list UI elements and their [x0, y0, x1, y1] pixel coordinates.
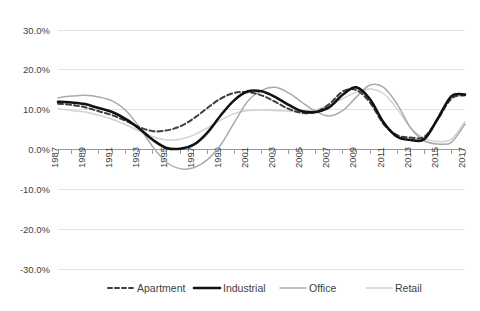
- x-tick-label: 1987: [49, 147, 60, 168]
- y-tick-label: 10.0%: [23, 104, 50, 115]
- x-tick-label: 2001: [239, 147, 250, 168]
- y-tick-label: -20.0%: [20, 224, 51, 235]
- x-tick-label: 2013: [402, 147, 413, 168]
- x-tick-label: 2017: [456, 147, 467, 168]
- x-tick-label: 2005: [293, 147, 304, 168]
- y-tick-label: 30.0%: [23, 25, 50, 36]
- legend-label-retail: Retail: [395, 282, 422, 294]
- x-tick-label: 2003: [266, 147, 277, 168]
- y-tick-label: -10.0%: [20, 184, 51, 195]
- footer-spacer: [0, 300, 480, 311]
- chart-container: 30.0%20.0%10.0%0.0%-10.0%-20.0%-30.0% 19…: [0, 0, 480, 311]
- legend-label-office: Office: [309, 282, 336, 294]
- x-tick-label: 1995: [158, 147, 169, 168]
- chart-legend: ApartmentIndustrialOfficeRetail: [108, 282, 422, 294]
- x-tick-label: 1989: [76, 147, 87, 168]
- legend-label-industrial: Industrial: [223, 282, 266, 294]
- x-axis-tick-labels: 1987198919911993199519971999200120032005…: [49, 147, 467, 168]
- y-axis-tick-labels: 30.0%20.0%10.0%0.0%-10.0%-20.0%-30.0%: [20, 25, 51, 275]
- x-tick-label: 2011: [375, 147, 386, 167]
- y-tick-label: 0.0%: [28, 144, 50, 155]
- y-tick-label: 20.0%: [23, 64, 50, 75]
- x-tick-label: 1997: [185, 147, 196, 168]
- legend-label-apartment: Apartment: [137, 282, 186, 294]
- x-tick-label: 1991: [103, 147, 114, 168]
- y-tick-label: -30.0%: [20, 264, 51, 275]
- x-tick-label: 2015: [429, 147, 440, 168]
- x-tick-label: 2007: [320, 147, 331, 168]
- line-chart: 30.0%20.0%10.0%0.0%-10.0%-20.0%-30.0% 19…: [0, 0, 480, 311]
- series-line-apartment: [58, 89, 465, 138]
- x-tick-label: 2009: [347, 147, 358, 168]
- x-tick-label: 1993: [130, 147, 141, 168]
